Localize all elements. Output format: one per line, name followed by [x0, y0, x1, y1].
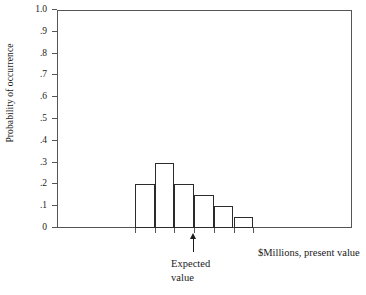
y-tick-mark — [52, 183, 57, 184]
x-axis-title: $Millions, present value — [258, 246, 360, 259]
y-tick-label: 1.0 — [0, 3, 47, 15]
x-tick-0 — [135, 228, 136, 233]
y-tick-mark — [52, 53, 57, 54]
x-tick-6 — [253, 228, 254, 233]
y-tick-label: .4 — [0, 134, 47, 146]
y-tick-label: 0 — [0, 221, 47, 233]
bar-4 — [214, 206, 234, 228]
y-tick-mark — [52, 118, 57, 119]
y-tick-mark — [52, 31, 57, 32]
y-tick-label: .2 — [0, 177, 47, 189]
x-tick-4 — [214, 228, 215, 233]
histogram-figure: Probability of occurrence 1.0.9.8.7.6.5.… — [0, 0, 366, 295]
y-tick-label: .6 — [0, 90, 47, 102]
y-tick-mark — [52, 74, 57, 75]
y-tick-label: .8 — [0, 47, 47, 59]
expected-value-label-line2: value — [171, 271, 210, 285]
arrow-stem — [193, 238, 194, 252]
x-tick-1 — [155, 228, 156, 233]
y-tick-label: .7 — [0, 68, 47, 80]
y-tick-mark — [52, 162, 57, 163]
bar-2 — [174, 184, 194, 228]
y-tick-mark — [52, 227, 57, 228]
expected-value-label: Expected value — [171, 257, 210, 285]
y-tick-mark — [52, 96, 57, 97]
bar-3 — [194, 195, 214, 228]
expected-value-label-line1: Expected — [171, 257, 210, 271]
x-tick-5 — [234, 228, 235, 233]
y-tick-mark — [52, 140, 57, 141]
y-tick-mark — [52, 205, 57, 206]
bar-0 — [135, 184, 155, 228]
bar-1 — [155, 163, 175, 228]
y-tick-mark — [52, 9, 57, 10]
y-tick-label: .5 — [0, 112, 47, 124]
bar-5 — [234, 217, 254, 228]
y-tick-label: .3 — [0, 156, 47, 168]
y-tick-label: .1 — [0, 199, 47, 211]
x-tick-2 — [174, 228, 175, 233]
y-tick-label: .9 — [0, 25, 47, 37]
